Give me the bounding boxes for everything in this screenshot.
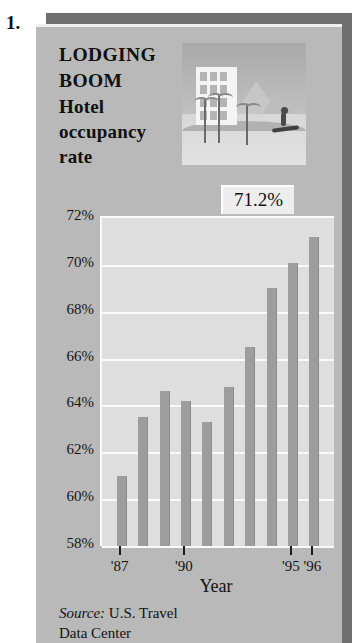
bar: [224, 387, 234, 546]
bar-slot: [111, 218, 132, 546]
source-text-line-2: Data Center: [59, 624, 289, 643]
x-axis-tick-label: '90: [175, 558, 193, 575]
bar-slot: [154, 218, 175, 546]
bar-slot: [304, 218, 325, 546]
bar-series: [102, 218, 334, 546]
y-axis-tick-label: 62%: [67, 442, 95, 459]
x-axis-tick-label: '95: [282, 558, 300, 575]
x-axis-tick: [311, 546, 313, 555]
y-axis-tick-label: 70%: [67, 254, 95, 271]
bar-chart: 72%70%68%66%64%62%60%58%: [100, 192, 332, 544]
x-axis-tick-label: '87: [111, 558, 129, 575]
y-axis-tick-label: 60%: [67, 489, 95, 506]
bar-slot: [132, 218, 153, 546]
bar-slot: [239, 218, 260, 546]
bar: [138, 417, 148, 546]
bar: [288, 263, 298, 546]
palm-trees-icon: [190, 89, 250, 149]
y-axis-tick-label: 58%: [67, 535, 95, 552]
bar-slot: [197, 218, 218, 546]
headline-line-5: rate: [59, 144, 199, 169]
headline-line-2: BOOM: [59, 68, 199, 94]
value-callout: 71.2%: [221, 185, 294, 214]
x-axis-tick: [290, 546, 292, 555]
bar-slot: [218, 218, 239, 546]
bar: [245, 347, 255, 546]
y-axis-tick-label: 68%: [67, 301, 95, 318]
source-text: U.S. Travel: [105, 605, 178, 621]
y-axis-tick-label: 72%: [67, 207, 95, 224]
bar: [202, 422, 212, 546]
bar: [267, 288, 277, 546]
headline-line-1: LODGING: [59, 42, 199, 68]
source-attribution: Source: U.S. Travel Data Center: [59, 604, 289, 643]
x-axis-title: Year: [100, 576, 332, 597]
bar: [117, 476, 127, 546]
y-axis-tick-label: 64%: [67, 395, 95, 412]
plot-area: 72%70%68%66%64%62%60%58%: [100, 216, 334, 546]
x-axis-tick: [119, 546, 121, 555]
x-axis-tick-label: '96: [303, 558, 321, 575]
headline-line-3: Hotel: [59, 94, 199, 119]
y-axis-tick-label: 66%: [67, 348, 95, 365]
bar: [309, 237, 319, 546]
panel-top-highlight: [36, 24, 342, 27]
bar-slot: [261, 218, 282, 546]
source-label: Source:: [59, 605, 105, 621]
x-axis-tick: [183, 546, 185, 555]
hotel-beach-photo: [182, 43, 306, 165]
bar: [181, 401, 191, 546]
surfer-body: [281, 113, 286, 126]
headline-line-4: occupancy: [59, 119, 199, 144]
bar-slot: [282, 218, 303, 546]
figure-panel: LODGING BOOM Hotel occupancy rate: [36, 24, 342, 643]
list-item-number: 1.: [6, 12, 20, 34]
bar: [160, 391, 170, 546]
bar-slot: [175, 218, 196, 546]
figure-headline: LODGING BOOM Hotel occupancy rate: [59, 42, 199, 170]
